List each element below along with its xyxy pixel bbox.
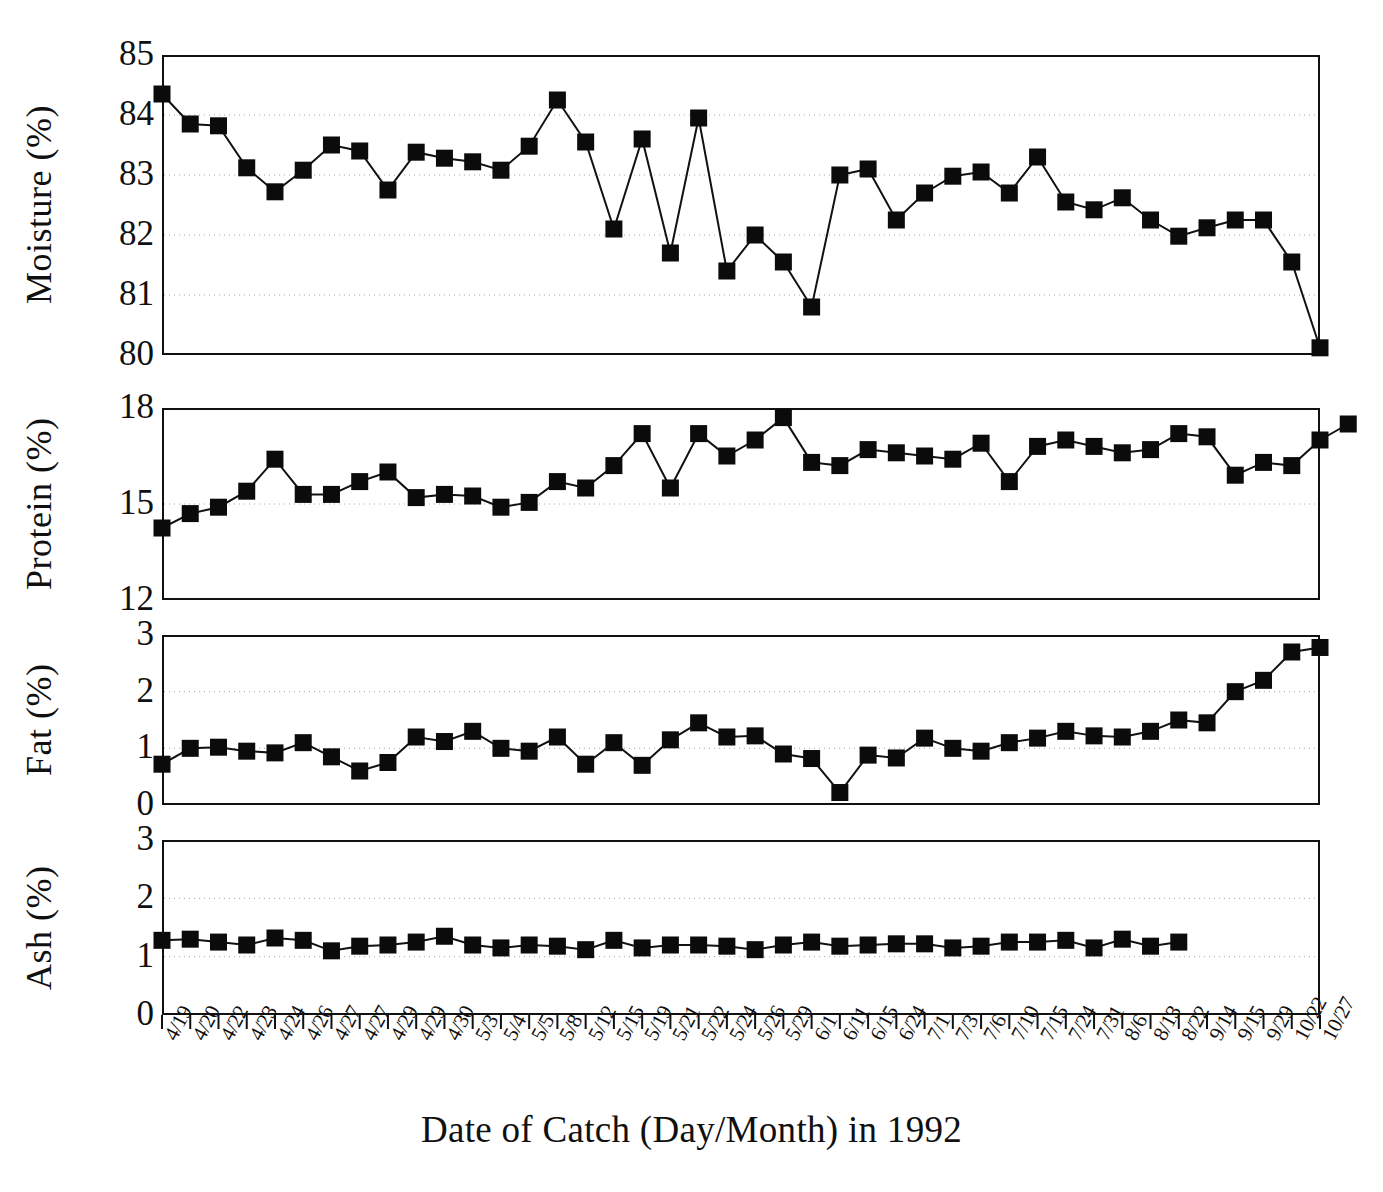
data-point xyxy=(351,763,368,780)
data-point xyxy=(634,939,651,956)
data-point xyxy=(210,739,227,756)
data-point xyxy=(436,928,453,945)
series-layer-fat xyxy=(0,635,1383,805)
data-point xyxy=(916,185,933,202)
data-point xyxy=(973,164,990,181)
data-point xyxy=(408,144,425,161)
data-point xyxy=(351,143,368,160)
data-point xyxy=(860,747,877,764)
data-point xyxy=(1312,339,1329,356)
data-point xyxy=(1114,189,1131,206)
data-point xyxy=(182,116,199,133)
data-point xyxy=(295,932,312,949)
data-point xyxy=(464,488,481,505)
data-point xyxy=(662,937,679,954)
data-point xyxy=(323,748,340,765)
data-point xyxy=(295,162,312,179)
data-point xyxy=(1227,212,1244,229)
data-point xyxy=(549,92,566,109)
data-point xyxy=(266,930,283,947)
data-point xyxy=(323,486,340,503)
data-point xyxy=(662,480,679,497)
data-point xyxy=(492,162,509,179)
data-point xyxy=(916,448,933,465)
data-point xyxy=(1057,723,1074,740)
data-point xyxy=(492,740,509,757)
data-point xyxy=(154,756,171,773)
data-point xyxy=(1227,683,1244,700)
x-axis-title: Date of Catch (Day/Month) in 1992 xyxy=(0,1108,1383,1151)
data-point xyxy=(464,937,481,954)
data-point xyxy=(944,939,961,956)
data-point xyxy=(1114,444,1131,461)
data-point xyxy=(577,480,594,497)
data-point xyxy=(521,937,538,954)
data-point xyxy=(379,937,396,954)
data-point xyxy=(1057,194,1074,211)
data-point xyxy=(775,937,792,954)
data-point xyxy=(1114,729,1131,746)
data-point xyxy=(238,159,255,176)
data-point xyxy=(973,435,990,452)
data-point xyxy=(323,137,340,154)
data-point xyxy=(888,749,905,766)
data-point xyxy=(1001,185,1018,202)
data-point xyxy=(464,723,481,740)
data-point xyxy=(1086,727,1103,744)
data-line-fat xyxy=(162,647,1320,792)
data-point xyxy=(577,756,594,773)
data-point xyxy=(408,934,425,951)
data-point xyxy=(1029,730,1046,747)
data-point xyxy=(634,131,651,148)
data-point xyxy=(916,730,933,747)
data-point xyxy=(577,134,594,151)
data-point xyxy=(860,161,877,178)
data-point xyxy=(238,937,255,954)
data-point xyxy=(690,714,707,731)
data-point xyxy=(549,729,566,746)
data-point xyxy=(860,937,877,954)
data-point xyxy=(210,499,227,516)
data-point xyxy=(747,941,764,958)
panel-fat: Fat (%)0123 xyxy=(0,635,1383,805)
data-point xyxy=(690,110,707,127)
data-point xyxy=(492,939,509,956)
data-point xyxy=(1142,938,1159,955)
data-point xyxy=(605,221,622,238)
data-point xyxy=(944,168,961,185)
data-point xyxy=(351,473,368,490)
data-point xyxy=(690,937,707,954)
data-point xyxy=(803,750,820,767)
data-point xyxy=(1199,714,1216,731)
panel-ash: Ash (%)0123 xyxy=(0,840,1383,1015)
data-point xyxy=(1057,432,1074,449)
data-point xyxy=(775,254,792,271)
data-point xyxy=(182,505,199,522)
data-point xyxy=(1086,201,1103,218)
data-point xyxy=(295,734,312,751)
data-point xyxy=(1142,441,1159,458)
data-point xyxy=(549,473,566,490)
data-point xyxy=(549,938,566,955)
data-point xyxy=(1001,473,1018,490)
data-point xyxy=(182,931,199,948)
data-point xyxy=(888,444,905,461)
data-point xyxy=(831,938,848,955)
data-point xyxy=(860,441,877,458)
data-point xyxy=(1170,934,1187,951)
data-point xyxy=(973,938,990,955)
data-point xyxy=(916,935,933,952)
data-point xyxy=(803,299,820,316)
data-point xyxy=(662,245,679,262)
data-point xyxy=(408,489,425,506)
data-point xyxy=(605,457,622,474)
data-point xyxy=(436,486,453,503)
data-point xyxy=(1255,454,1272,471)
data-point xyxy=(605,734,622,751)
data-point xyxy=(944,740,961,757)
data-point xyxy=(690,425,707,442)
data-point xyxy=(747,727,764,744)
data-point xyxy=(605,932,622,949)
data-point xyxy=(1199,219,1216,236)
data-point xyxy=(1142,723,1159,740)
